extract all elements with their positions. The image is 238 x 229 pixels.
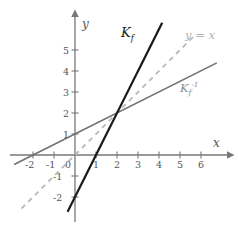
ytick-label--1: -1 — [53, 172, 62, 182]
ytick-label-3: 3 — [63, 88, 69, 98]
curve-label-kf-base: K — [121, 25, 131, 40]
xtick-label--2: -2 — [25, 160, 34, 170]
y-axis-label: y — [82, 18, 89, 30]
xtick-label--1: -1 — [46, 160, 55, 170]
ytick-label-5: 5 — [63, 46, 69, 56]
xtick-label-3: 3 — [135, 160, 141, 170]
xtick-label-5: 5 — [177, 160, 183, 170]
ytick-label--2: -2 — [53, 193, 62, 203]
curve-kf — [68, 23, 163, 212]
ytick-label-4: 4 — [63, 67, 69, 77]
curve-label-kf-subscript: f — [131, 33, 134, 43]
curve-label-kfinv-subscript: f — [189, 88, 192, 97]
xtick-label-2: 2 — [114, 160, 120, 170]
xtick-label-4: 4 — [156, 160, 162, 170]
curve-label-kf-inverse: Kf-1 — [180, 81, 198, 97]
curve-label-kf: Kf — [121, 26, 134, 42]
x-axis-label: x — [213, 137, 220, 149]
ytick-label-2: 2 — [63, 109, 69, 119]
function-inverse-graph-figure: -2 -1 0 1 2 3 4 5 6 5 4 3 2 1 -1 -2 x y … — [0, 0, 238, 229]
xtick-label-6: 6 — [198, 160, 204, 170]
curve-label-kfinv-base: K — [180, 81, 189, 95]
ytick-label-1: 1 — [63, 130, 69, 140]
xtick-label-1: 1 — [93, 160, 99, 170]
curve-label-kfinv-superscript: -1 — [191, 80, 198, 89]
curve-label-y-equals-x: y = x — [185, 30, 215, 42]
curve-y-equals-x — [22, 35, 195, 208]
xtick-label-0: 0 — [65, 160, 71, 170]
